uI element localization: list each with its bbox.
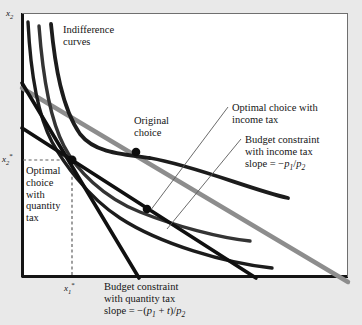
original-choice-line-1: Original (134, 115, 169, 127)
budget-income-slope-den-sub: 2 (301, 163, 305, 172)
budget-income-line-2: with income tax (245, 146, 319, 158)
optimal-quantity-line-2: choice (26, 177, 60, 189)
budget-quantity-slope-den-sub: 2 (182, 310, 186, 319)
budget-income-line-1: Budget constraint (245, 134, 319, 146)
annotation-budget-constraint-quantity-tax: Budget constraint with quantity tax slop… (104, 281, 185, 320)
axis-tick-label-x2-star: x2* (2, 152, 13, 166)
optimal-income-line-1: Optimal choice with (232, 102, 318, 114)
indifference-curves-line-2: curves (63, 36, 114, 48)
annotation-original-choice: Original choice (134, 115, 169, 139)
original-choice-line-2: choice (134, 127, 169, 139)
axis-tick-label-x1-star: x1* (64, 281, 75, 295)
annotation-indifference-curves: Indifference curves (63, 24, 114, 48)
optimal-quantity-line-5: tax (26, 212, 60, 224)
optimal-quantity-line-3: with (26, 189, 60, 201)
budget-quantity-slope-plus: + (156, 305, 167, 316)
budget-income-slope: slope = −p1/p2 (245, 158, 319, 174)
annotation-optimal-choice-quantity-tax: Optimal choice with quantity tax (26, 165, 60, 224)
optimal-income-line-2: income tax (232, 114, 318, 126)
annotation-optimal-choice-income-tax: Optimal choice with income tax (232, 102, 318, 126)
budget-quantity-slope-prefix: slope = −( (104, 305, 147, 316)
budget-income-slope-prefix: slope = − (245, 158, 284, 169)
optimal-quantity-line-1: Optimal (26, 165, 60, 177)
axis-label-x2: x2 (6, 8, 13, 20)
annotation-budget-constraint-income-tax: Budget constraint with income tax slope … (245, 134, 319, 173)
point-optimal-choice-income-tax[interactable] (143, 205, 152, 214)
point-original-choice[interactable] (132, 148, 141, 157)
budget-quantity-slope: slope = −(p1 + t)/p2 (104, 305, 185, 321)
optimal-quantity-line-4: quantity (26, 200, 60, 212)
point-optimal-choice-quantity-tax[interactable] (68, 156, 77, 165)
indifference-curves-line-1: Indifference (63, 24, 114, 36)
budget-quantity-line-1: Budget constraint (104, 281, 185, 293)
budget-quantity-line-2: with quantity tax (104, 293, 185, 305)
